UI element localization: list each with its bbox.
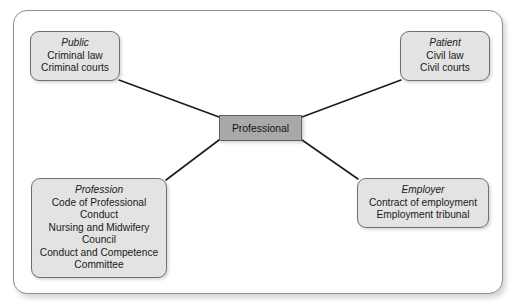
node-public[interactable]: Public Criminal law Criminal courts	[30, 31, 120, 81]
node-profession-line-4: Council	[82, 234, 116, 247]
node-patient[interactable]: Patient Civil law Civil courts	[400, 31, 490, 81]
node-employer[interactable]: Employer Contract of employment Employme…	[357, 178, 489, 228]
node-public-line-1: Criminal law	[47, 50, 102, 63]
node-patient-line-1: Civil law	[426, 50, 463, 63]
node-profession-line-5: Conduct and Competence	[40, 247, 158, 260]
node-public-title: Public	[61, 37, 89, 50]
node-professional-center[interactable]: Professional	[219, 115, 302, 141]
node-profession-line-2: Conduct	[80, 209, 118, 222]
node-patient-title: Patient	[429, 37, 461, 50]
node-patient-line-2: Civil courts	[420, 62, 470, 75]
node-profession-line-6: Committee	[74, 259, 123, 272]
node-profession-line-1: Code of Professional	[52, 197, 147, 210]
node-profession-title: Profession	[75, 184, 123, 197]
node-public-line-2: Criminal courts	[41, 62, 109, 75]
node-employer-title: Employer	[401, 184, 444, 197]
node-employer-line-2: Employment tribunal	[377, 209, 470, 222]
node-profession-line-3: Nursing and Midwifery	[49, 222, 150, 235]
node-profession[interactable]: Profession Code of Professional Conduct …	[31, 178, 167, 278]
diagram-canvas: Public Criminal law Criminal courts Pati…	[0, 0, 515, 305]
node-professional-center-label: Professional	[232, 123, 289, 134]
node-employer-line-1: Contract of employment	[369, 197, 477, 210]
